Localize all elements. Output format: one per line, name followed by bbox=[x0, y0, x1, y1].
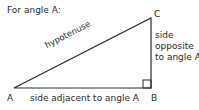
opposite-side-label: side opposite to angle A bbox=[155, 30, 199, 63]
vertex-label-a: A bbox=[7, 93, 13, 104]
opposite-line-3: to angle A bbox=[155, 52, 199, 63]
diagram-title: For angle A: bbox=[7, 5, 61, 16]
vertex-label-b: B bbox=[151, 93, 157, 104]
vertex-label-c: C bbox=[154, 9, 160, 20]
right-angle-marker-icon bbox=[143, 80, 151, 88]
right-triangle-diagram: For angle A: A B C hypotenuse side oppos… bbox=[0, 0, 199, 110]
adjacent-side-label: side adjacent to angle A bbox=[30, 93, 139, 104]
opposite-line-2: opposite bbox=[155, 41, 199, 52]
opposite-line-1: side bbox=[155, 30, 199, 41]
